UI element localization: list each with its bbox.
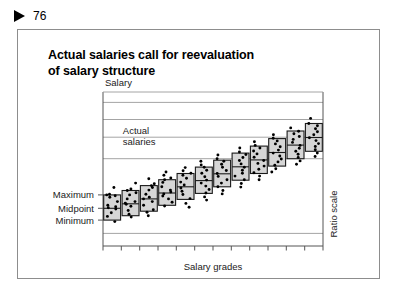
salary-dot xyxy=(225,169,228,172)
salary-dot xyxy=(270,171,273,174)
salary-dot xyxy=(252,150,255,153)
page-number: 76 xyxy=(33,10,47,22)
x-axis-title: Salary grades xyxy=(184,261,243,272)
salary-dot xyxy=(148,196,151,199)
salary-dot xyxy=(314,145,317,148)
salary-dot xyxy=(243,178,246,181)
salary-dot xyxy=(222,160,225,163)
salary-dot xyxy=(276,139,279,142)
salary-dot xyxy=(239,186,242,189)
salary-dot xyxy=(256,152,259,155)
salary-dot xyxy=(256,162,259,165)
salary-dot xyxy=(200,182,203,185)
salary-dot xyxy=(106,215,109,218)
salary-dot xyxy=(113,220,116,223)
salary-dot xyxy=(108,193,111,196)
salary-dot xyxy=(257,168,260,171)
salary-dot xyxy=(208,188,211,191)
salary-dot xyxy=(299,159,302,162)
salary-dot xyxy=(114,205,117,208)
salary-dot xyxy=(169,189,172,192)
salary-dot xyxy=(254,144,257,147)
salary-dot xyxy=(162,192,165,195)
salary-dot xyxy=(216,185,219,188)
salary-dot xyxy=(258,175,261,178)
salary-dot xyxy=(204,185,207,188)
salary-dot xyxy=(110,211,113,214)
salary-dot xyxy=(184,166,187,169)
salary-dot xyxy=(160,185,163,188)
salary-dot xyxy=(238,159,241,162)
salary-dot xyxy=(307,122,310,125)
salary-dot xyxy=(316,124,319,127)
y-axis-title: Salary xyxy=(105,77,132,88)
salary-dot xyxy=(205,179,208,182)
salary-dot xyxy=(241,172,244,175)
salary-dot xyxy=(126,189,129,192)
salary-dot xyxy=(241,169,244,172)
salary-dot xyxy=(106,204,109,207)
page-marker: 76 xyxy=(14,9,47,23)
salary-dot xyxy=(183,184,186,187)
salary-dot xyxy=(252,171,255,174)
salary-dot xyxy=(124,202,127,205)
salary-dot xyxy=(277,149,280,152)
salary-dot xyxy=(129,205,132,208)
salary-dot xyxy=(189,197,192,200)
salary-dot xyxy=(298,135,301,138)
salary-dot xyxy=(289,126,292,129)
salary-dot xyxy=(244,153,247,156)
salary-dot xyxy=(316,152,319,155)
salary-dot xyxy=(129,188,132,191)
salary-dot xyxy=(142,204,145,207)
y-tick-label-midpoint: Midpoint xyxy=(58,203,94,214)
salary-dot xyxy=(153,182,156,185)
salary-dot xyxy=(280,158,283,161)
salary-dot xyxy=(314,148,317,151)
salary-dot xyxy=(299,144,302,147)
salary-dot xyxy=(185,177,188,180)
salary-dot xyxy=(238,147,241,150)
salary-dot xyxy=(273,164,276,167)
salary-dot xyxy=(272,133,275,136)
salary-dot xyxy=(297,156,300,159)
salary-dot xyxy=(272,137,275,140)
salary-dot xyxy=(258,147,261,150)
salary-dot xyxy=(200,163,203,166)
salary-dot xyxy=(221,192,224,195)
salary-dot xyxy=(161,181,164,184)
chart-canvas: MaximumMidpointMinimumActualsalariesSala… xyxy=(18,30,381,280)
salary-dot xyxy=(162,174,165,177)
y-tick-label-maximum: Maximum xyxy=(53,189,94,200)
salary-dot xyxy=(128,193,131,196)
salary-dot xyxy=(221,166,224,169)
salary-dot xyxy=(220,182,223,185)
salary-dot xyxy=(147,189,150,192)
salary-dot xyxy=(315,139,318,142)
salary-dot xyxy=(294,150,297,153)
salary-dot xyxy=(188,206,191,209)
salary-dot xyxy=(312,133,315,136)
salary-dot xyxy=(105,193,108,196)
salary-dot xyxy=(277,160,280,163)
salary-dot xyxy=(204,192,207,195)
salary-dot xyxy=(147,177,150,180)
salary-dot xyxy=(309,117,312,120)
salary-dot xyxy=(241,156,244,159)
salary-dot xyxy=(278,155,281,158)
salary-dot xyxy=(234,175,237,178)
salary-dot xyxy=(292,132,295,135)
salary-dot xyxy=(146,211,149,214)
salary-dot xyxy=(134,182,137,185)
salary-dot xyxy=(216,154,219,157)
salary-dot xyxy=(135,191,138,194)
salary-dot xyxy=(151,200,154,203)
salary-dot xyxy=(107,206,110,209)
salary-dot xyxy=(130,216,133,219)
salary-dot xyxy=(108,196,111,199)
salary-dot xyxy=(297,130,300,133)
salary-dot xyxy=(181,174,184,177)
salary-dot xyxy=(253,156,256,159)
salary-dot xyxy=(240,162,243,165)
salary-dot xyxy=(182,169,185,172)
